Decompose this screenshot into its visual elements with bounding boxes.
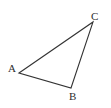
vertex-label-a: A bbox=[8, 63, 16, 74]
geometry-figure: A B C bbox=[0, 0, 111, 108]
vertex-label-c: C bbox=[91, 11, 98, 22]
vertex-label-b: B bbox=[69, 91, 76, 102]
